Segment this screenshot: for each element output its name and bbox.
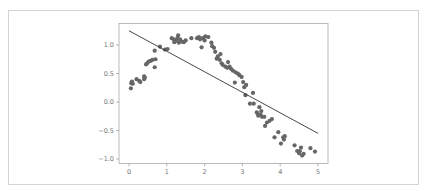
data-point — [189, 36, 193, 40]
data-point — [131, 82, 135, 86]
data-point — [262, 115, 266, 119]
data-point — [213, 50, 217, 54]
x-tick-label: 5 — [316, 168, 320, 176]
data-point — [248, 102, 252, 106]
data-point — [153, 65, 157, 69]
data-point — [292, 143, 296, 147]
x-tick-label: 3 — [240, 168, 244, 176]
data-point — [244, 83, 248, 87]
scatter-chart: 012345 1.00.50.0−0.5−1.0 — [0, 0, 429, 191]
data-point — [259, 109, 263, 113]
data-point — [212, 46, 216, 50]
x-tick-label: 2 — [203, 168, 207, 176]
y-tick-label: −0.5 — [98, 127, 114, 135]
data-point — [138, 80, 142, 84]
data-point — [143, 75, 147, 79]
y-tick-label: 0.0 — [104, 98, 114, 106]
data-point — [184, 38, 188, 42]
data-point — [299, 146, 303, 150]
y-axis-ticks: 1.00.50.0−0.5−1.0 — [98, 41, 119, 163]
data-point — [276, 130, 280, 134]
y-tick-label: 0.5 — [104, 70, 114, 78]
data-point — [203, 38, 207, 42]
data-point — [206, 35, 210, 39]
data-point — [129, 86, 133, 90]
data-point — [279, 142, 283, 146]
data-point — [302, 152, 306, 156]
data-point — [233, 81, 237, 85]
data-point — [272, 135, 276, 139]
data-point — [218, 52, 222, 56]
data-point — [257, 105, 261, 109]
data-point — [313, 149, 317, 153]
data-point — [153, 57, 157, 61]
x-axis-ticks: 012345 — [127, 164, 320, 177]
x-tick-label: 1 — [165, 168, 169, 176]
y-tick-label: −1.0 — [98, 155, 114, 163]
x-tick-label: 0 — [127, 168, 131, 176]
y-tick-label: 1.0 — [104, 41, 114, 49]
x-tick-label: 4 — [278, 168, 282, 176]
data-point — [252, 102, 256, 106]
data-point — [240, 75, 244, 79]
data-point — [270, 117, 274, 121]
data-point — [251, 91, 255, 95]
plot-area — [119, 24, 328, 164]
data-point — [153, 49, 157, 53]
data-point — [308, 146, 312, 150]
data-point — [199, 45, 203, 49]
data-point — [283, 134, 287, 138]
data-point — [176, 33, 180, 37]
data-point — [226, 60, 230, 64]
